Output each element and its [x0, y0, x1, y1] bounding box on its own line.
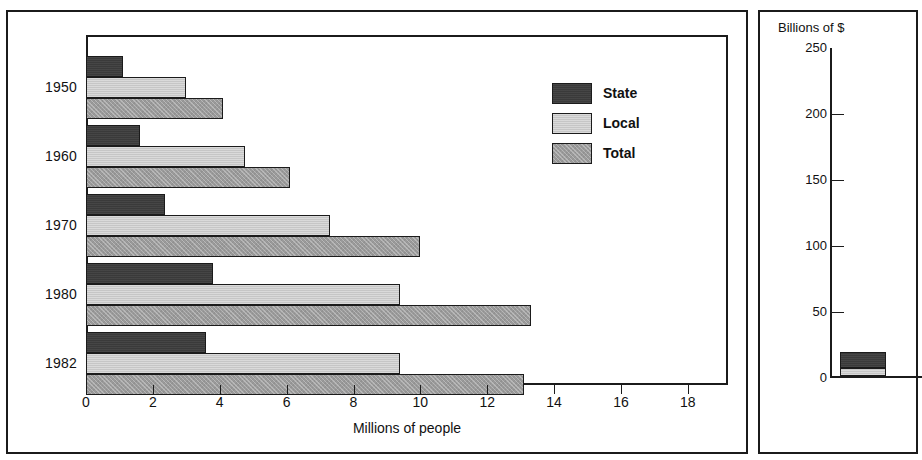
right-axis-title: Billions of $ [778, 20, 844, 35]
legend-swatch-state [552, 83, 592, 104]
legend-item-state: State [552, 78, 640, 108]
legend-label-total: Total [603, 145, 635, 161]
bar-1960-local [86, 146, 245, 167]
right-x-axis-ticklabels [830, 382, 922, 402]
y-axis-ticklabel-1970: 1970 [45, 217, 77, 233]
left-x-axis-ticklabels: 024681012141618 [86, 394, 728, 414]
bar-1950-state [86, 56, 123, 77]
legend-label-local: Local [603, 115, 640, 131]
right-y-axis-ticklabel: 250 [805, 40, 827, 55]
x-axis-ticklabel: 4 [216, 394, 224, 410]
x-axis-ticklabel: 0 [82, 394, 90, 410]
x-axis-tick [220, 385, 221, 394]
x-axis-tick [688, 385, 689, 394]
bar-1980-state [86, 263, 213, 284]
right-y-axis-ticklabel: 100 [805, 238, 827, 253]
y-axis-ticklabel-1950: 1950 [45, 79, 77, 95]
x-axis-tick [621, 385, 622, 394]
right-y-axis-tick [830, 312, 844, 313]
y-axis-ticklabel-1960: 1960 [45, 148, 77, 164]
y-axis-ticklabel-1980: 1980 [45, 286, 77, 302]
x-axis-ticklabel: 16 [613, 394, 629, 410]
bar-1960-total [86, 167, 290, 188]
bar-1950-total [86, 98, 223, 119]
x-axis-ticklabel: 6 [283, 394, 291, 410]
right-y-axis-tick [830, 114, 844, 115]
legend-swatch-total [552, 143, 592, 164]
legend-item-local: Local [552, 108, 640, 138]
x-axis-ticklabel: 10 [413, 394, 429, 410]
right-y-axis-ticklabel: 50 [813, 304, 827, 319]
bar-1960-state [86, 125, 140, 146]
right-y-axis-tick [830, 180, 844, 181]
right-y-axis-ticklabel: 150 [805, 172, 827, 187]
bar-1970-total [86, 236, 420, 257]
left-chart-legend: StateLocalTotal [552, 78, 640, 168]
right-y-axis-ticklabel: 200 [805, 106, 827, 121]
x-axis-tick [153, 385, 154, 394]
right-bar-segment-state [840, 352, 886, 368]
bar-1980-local [86, 284, 400, 305]
right-bar-1950 [840, 352, 886, 376]
bar-1950-local [86, 77, 186, 98]
x-axis-ticklabel: 2 [149, 394, 157, 410]
legend-swatch-local [552, 113, 592, 134]
bar-1982-local [86, 353, 400, 374]
x-axis-ticklabel: 8 [350, 394, 358, 410]
right-bar-segment-local [840, 368, 886, 376]
x-axis-ticklabel: 18 [680, 394, 696, 410]
bar-1970-local [86, 215, 330, 236]
x-axis-tick [487, 385, 488, 394]
x-axis-tick [287, 385, 288, 394]
right-plot-area [830, 48, 922, 378]
x-axis-tick [554, 385, 555, 394]
x-axis-ticklabel: 14 [546, 394, 562, 410]
bar-1980-total [86, 305, 531, 326]
legend-item-total: Total [552, 138, 640, 168]
y-axis-ticklabel-1982: 1982 [45, 355, 77, 371]
x-axis-tick [420, 385, 421, 394]
right-y-axis-ticklabel: 0 [820, 370, 827, 385]
x-axis-tick [354, 385, 355, 394]
x-axis-ticklabel: 12 [479, 394, 495, 410]
bar-1970-state [86, 194, 165, 215]
left-x-axis-title: Millions of people [86, 420, 728, 436]
right-y-axis-tick [830, 246, 844, 247]
legend-label-state: State [603, 85, 637, 101]
bar-1982-state [86, 332, 206, 353]
